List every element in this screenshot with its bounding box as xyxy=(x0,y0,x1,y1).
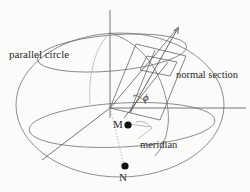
plane-trace-line-3 xyxy=(124,62,168,118)
normal-section-diagram: parallel circle normal section meridian … xyxy=(0,0,250,192)
label-meridian: meridian xyxy=(140,140,177,151)
label-point-m: M xyxy=(113,119,123,130)
dotted-drop-line xyxy=(110,108,124,165)
normal-section-plane xyxy=(110,44,186,120)
label-parallel-circle: parallel circle xyxy=(9,49,69,60)
point-n-marker xyxy=(121,162,128,169)
oblique-axis xyxy=(42,108,110,160)
meridian-leader xyxy=(138,128,152,139)
meridian-arc xyxy=(110,33,168,156)
label-normal-section: normal section xyxy=(176,70,238,81)
label-point-n: N xyxy=(119,172,127,183)
point-m-marker xyxy=(124,121,131,128)
label-angle-phi: ϕ xyxy=(143,92,149,103)
meridian-arc-back xyxy=(90,33,110,104)
diagram-canvas xyxy=(0,0,250,192)
normal-arrow xyxy=(130,28,178,113)
